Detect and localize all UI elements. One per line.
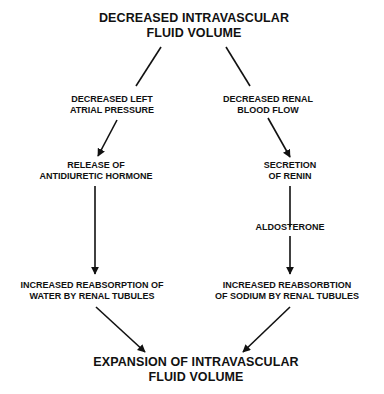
node-decreased-intravascular-fluid-volume: DECREASED INTRAVASCULAR FLUID VOLUME bbox=[99, 11, 289, 41]
node-release-of-adh: RELEASE OF ANTIDIURETIC HORMONE bbox=[40, 160, 153, 182]
edge-top-left1 bbox=[136, 47, 161, 86]
node-aldosterone: ALDOSTERONE bbox=[255, 222, 324, 233]
edge-top-right1 bbox=[226, 47, 250, 86]
connector-arrows bbox=[0, 0, 384, 394]
node-decreased-left-atrial-pressure: DECREASED LEFT ATRIAL PRESSURE bbox=[70, 94, 154, 116]
node-expansion-of-intravascular-fluid-volume: EXPANSION OF INTRAVASCULAR FLUID VOLUME bbox=[93, 355, 298, 385]
node-secretion-of-renin: SECRETION OF RENIN bbox=[264, 160, 317, 182]
node-increased-reabsorption-sodium: INCREASED REABSORBTION OF SODIUM BY RENA… bbox=[215, 280, 359, 302]
node-decreased-renal-blood-flow: DECREASED RENAL BLOOD FLOW bbox=[223, 94, 313, 116]
node-increased-reabsorption-water: INCREASED REABSORPTION OF WATER BY RENAL… bbox=[20, 280, 163, 302]
edge-right4-bottom bbox=[243, 307, 290, 352]
edge-left3-bottom bbox=[96, 307, 145, 352]
edge-right1-right2 bbox=[268, 118, 290, 157]
edge-left1-left2 bbox=[98, 120, 117, 156]
